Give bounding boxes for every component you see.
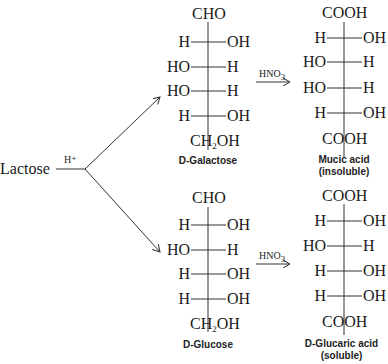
substituent-right: OH	[363, 30, 386, 46]
substituent-left: HO	[285, 80, 326, 96]
substituent-right: OH	[227, 291, 250, 307]
substituent-left: H	[285, 105, 326, 121]
substituent-right: OH	[227, 217, 250, 233]
hydroxymethyl-group: CH2OH	[190, 133, 240, 149]
substituent-right: OH	[227, 34, 250, 50]
glucose-name: D-Glucose	[170, 339, 246, 351]
substituent-right: OH	[363, 105, 386, 121]
substituent-right: OH	[363, 288, 386, 304]
substituent-right: H	[363, 238, 375, 254]
substituent-left: H	[150, 34, 190, 50]
lactose-label: Lactose	[0, 161, 50, 177]
substituent-left: H	[285, 263, 326, 279]
carboxyl-group-bottom: COOH	[322, 131, 367, 147]
substituent-left: HO	[150, 83, 190, 99]
substituent-right: H	[227, 83, 239, 99]
aldehyde-group: CHO	[192, 6, 226, 22]
substituent-left: HO	[285, 238, 326, 254]
acid-catalyst-label: H⁺	[64, 155, 77, 165]
substituent-right: OH	[227, 108, 250, 124]
hno3-label-bottom: HNO3	[259, 251, 285, 261]
glucaric-acid-solubility: (soluble)	[295, 350, 388, 362]
carboxyl-group-bottom: COOH	[322, 314, 367, 330]
substituent-left: HO	[150, 59, 190, 75]
mucic-acid-name: Mucic acid	[300, 154, 388, 166]
hydroxymethyl-group: CH2OH	[190, 316, 240, 332]
substituent-right: H	[227, 242, 239, 258]
substituent-right: OH	[227, 266, 250, 282]
reaction-lines	[0, 0, 388, 364]
substituent-left: H	[150, 291, 190, 307]
galactose-name: D-Galactose	[170, 155, 246, 167]
substituent-right: H	[363, 80, 375, 96]
carboxyl-group-top: COOH	[322, 188, 367, 204]
substituent-left: H	[150, 266, 190, 282]
aldehyde-group: CHO	[192, 190, 226, 206]
substituent-right: H	[363, 54, 375, 70]
hno3-label-top: HNO3	[259, 69, 285, 79]
substituent-right: OH	[363, 213, 386, 229]
substituent-left: HO	[285, 54, 326, 70]
substituent-left: HO	[150, 242, 190, 258]
substituent-left: H	[285, 288, 326, 304]
substituent-left: H	[285, 30, 326, 46]
carboxyl-group-top: COOH	[322, 5, 367, 21]
substituent-left: H	[285, 213, 326, 229]
substituent-left: H	[150, 217, 190, 233]
substituent-left: H	[150, 108, 190, 124]
glucaric-acid-name: D-Glucaric acid	[295, 338, 388, 350]
substituent-right: OH	[363, 263, 386, 279]
mucic-acid-solubility: (insoluble)	[300, 166, 388, 178]
substituent-right: H	[227, 59, 239, 75]
